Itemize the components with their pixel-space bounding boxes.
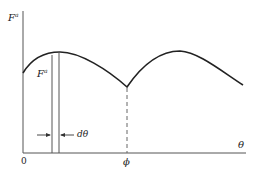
y-axis-label-sup: a bbox=[15, 11, 19, 18]
left-arrowhead-icon bbox=[46, 133, 51, 137]
force-curve bbox=[23, 51, 243, 87]
x-axis-label: θ bbox=[238, 140, 244, 150]
phi-label: ϕ bbox=[123, 157, 130, 167]
y-axis-label-main: F bbox=[8, 12, 15, 23]
strip-label-sup: a bbox=[44, 67, 48, 74]
right-arrowhead-icon bbox=[60, 133, 65, 137]
strip-label-main: F bbox=[37, 68, 44, 79]
origin-label: 0 bbox=[21, 157, 27, 166]
d-theta-label: dθ bbox=[77, 130, 88, 139]
strip-label: Fa bbox=[37, 68, 48, 79]
force-angle-diagram bbox=[0, 0, 257, 173]
y-axis-label: Fa bbox=[8, 12, 19, 23]
